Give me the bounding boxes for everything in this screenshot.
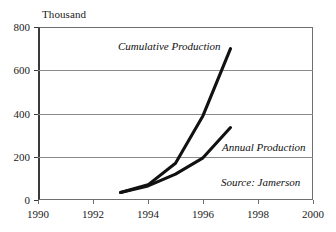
production-line-chart: Thousand 0200400600800 19901992199419961… — [0, 0, 336, 232]
series-layer — [0, 0, 336, 232]
annual-production-line — [121, 128, 231, 193]
source-note: Source: Jamerson — [221, 176, 300, 188]
cumulative-production-label: Cumulative Production — [118, 40, 221, 52]
cumulative-production-line — [121, 49, 231, 193]
annual-production-label: Annual Production — [222, 141, 306, 153]
